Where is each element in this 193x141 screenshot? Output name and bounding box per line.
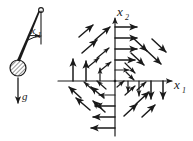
field-vector (125, 63, 135, 73)
field-vector (124, 104, 137, 116)
y-axis-label: x (116, 4, 123, 19)
x-axis-label-subscript: 1 (182, 86, 186, 95)
field-vector (136, 92, 149, 104)
field-vector (131, 53, 144, 65)
pendulum-diagram: x 1 g (10, 8, 43, 103)
field-vector (95, 27, 110, 40)
origin-marker (114, 80, 117, 83)
vector-field (69, 25, 166, 128)
x-axis-label: x (173, 77, 180, 92)
y-axis-label-subscript: 2 (125, 13, 129, 22)
field-vector (84, 82, 94, 91)
field-vector (137, 82, 146, 90)
field-vector (101, 62, 111, 70)
field-vector (79, 25, 93, 37)
phase-portrait: x 2 x 1 (58, 4, 186, 136)
field-vector (69, 87, 81, 98)
field-vector (152, 39, 166, 52)
pendulum-angle-label: x (30, 24, 36, 36)
field-vector (125, 86, 135, 95)
field-vector (117, 81, 124, 87)
field-vector (82, 40, 97, 53)
field-vector (97, 48, 109, 58)
field-vector (142, 105, 155, 117)
field-vector (76, 98, 90, 110)
field-vector (97, 81, 106, 89)
field-vector (91, 87, 104, 98)
field-vector (88, 58, 99, 67)
pendulum-bob (10, 60, 26, 76)
field-vector (146, 50, 161, 64)
field-vector (126, 72, 134, 80)
figure-svg: x 1 g x 2 x 1 (0, 0, 193, 141)
gravity-label: g (22, 90, 28, 102)
pendulum-angle-label-subscript: 1 (38, 31, 42, 40)
figure-container: x 1 g x 2 x 1 (0, 0, 193, 141)
